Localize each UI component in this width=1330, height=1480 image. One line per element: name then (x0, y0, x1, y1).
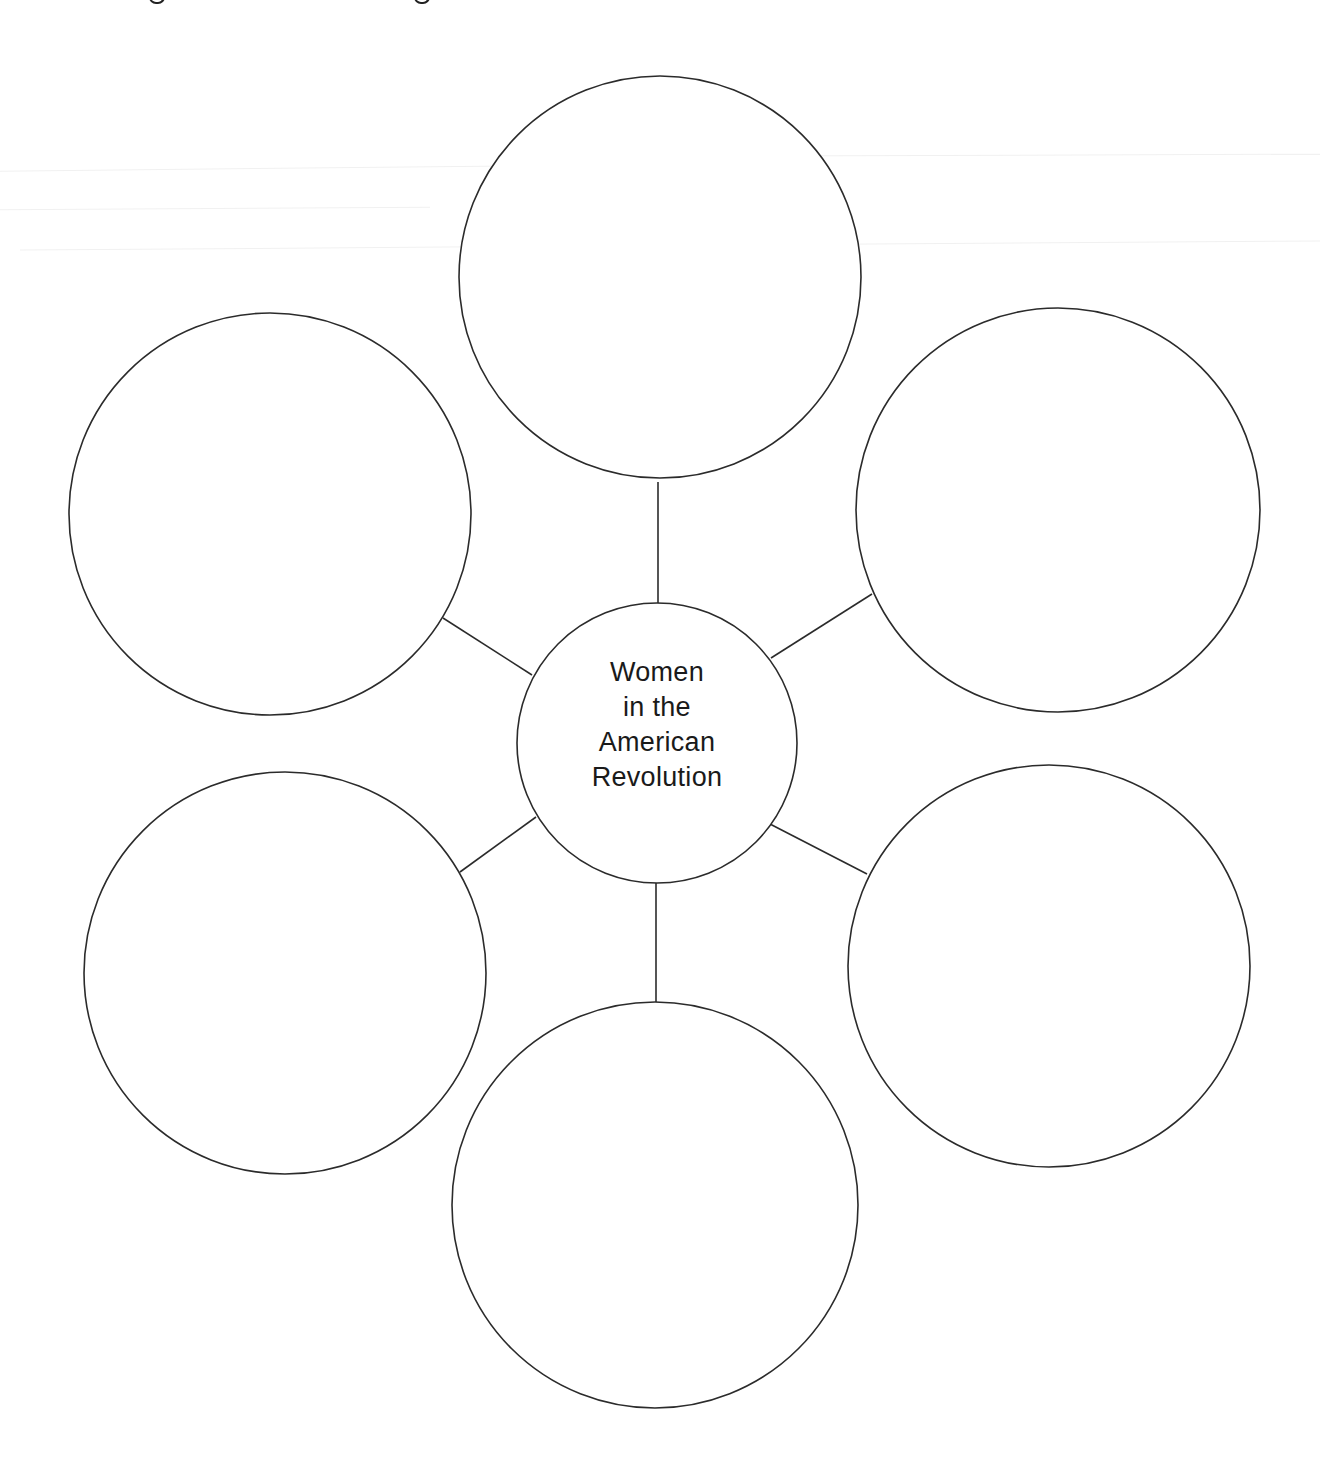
center-label-line: Revolution (537, 760, 777, 795)
connector-line-upper-right (771, 594, 872, 658)
center-label-line: American (537, 725, 777, 760)
connector-line-upper-left (443, 618, 532, 675)
satellite-circle-lower-right[interactable] (848, 765, 1250, 1167)
satellite-circle-upper-left[interactable] (69, 313, 471, 715)
center-label-line: Women (537, 655, 777, 690)
center-label-line: in the (537, 690, 777, 725)
worksheet-page: Women in the American Revolution (0, 0, 1330, 1480)
satellite-circle-bottom[interactable] (452, 1002, 858, 1408)
connector-line-lower-left (460, 817, 536, 872)
satellite-circle-upper-right[interactable] (856, 308, 1260, 712)
connector-line-lower-right (770, 824, 867, 874)
center-topic-label: Women in the American Revolution (537, 655, 777, 795)
satellite-circle-top[interactable] (459, 76, 861, 478)
satellite-circle-lower-left[interactable] (84, 772, 486, 1174)
